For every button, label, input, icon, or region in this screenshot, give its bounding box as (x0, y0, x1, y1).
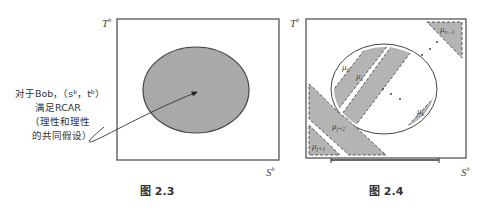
y-axis-label-2-4: Tb (290, 17, 299, 29)
caption-2-3: 图 2.3 (140, 185, 174, 198)
label-mu-0: μ0 (341, 62, 350, 73)
y-axis-label: Tb (102, 17, 111, 29)
x-axis-label: Sb (266, 166, 275, 178)
figure-canvas: Tb Sb 对于Bob，（sb，tb） 满足RCAR （理性和理性 的共同假设）… (0, 0, 490, 211)
caption-2-4: 图 2.4 (369, 185, 404, 198)
x-axis-label-2-4: Sb (461, 166, 470, 178)
annotation-line-1: 对于Bob，（sb，tb） (15, 88, 105, 99)
annotation-line-2: 满足RCAR (35, 102, 81, 113)
figure-2-4: μ0 μ1 μk μn−1 μj+2 μj+1 Tb Sb 图 2.4 (290, 17, 470, 198)
rcar-region (143, 47, 249, 133)
annotation-line-3: （理性和理性 (30, 116, 90, 127)
annotation-line-4: 的共同假设） (32, 130, 92, 141)
label-mu-k: μk (416, 106, 425, 117)
figure-2-3: Tb Sb 对于Bob，（sb，tb） 满足RCAR （理性和理性 的共同假设）… (15, 17, 279, 198)
